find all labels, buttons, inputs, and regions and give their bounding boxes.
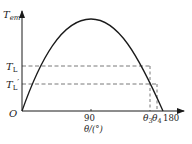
- x-axis-label: θ/(°): [84, 124, 103, 134]
- tick-label-180: 180: [163, 113, 179, 123]
- torque-curve: [22, 19, 163, 111]
- tl-label: TL: [6, 61, 18, 74]
- tl-prime-label: TL′: [6, 77, 19, 92]
- theta4-label: θ4: [152, 113, 162, 125]
- diagram-canvas: Tem TL TL′ O 90 θ3 θ4 180 θ/(°): [0, 0, 192, 144]
- tick-label-90: 90: [84, 113, 95, 123]
- origin-label: O: [9, 108, 17, 119]
- y-axis-label: Tem: [3, 9, 21, 22]
- torque-angle-diagram: Tem TL TL′ O 90 θ3 θ4 180 θ/(°): [0, 0, 192, 144]
